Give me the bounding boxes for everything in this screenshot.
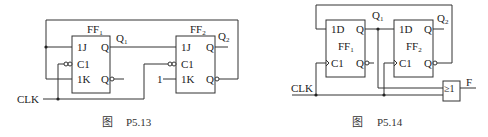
pin-c1: C1	[331, 57, 344, 69]
pin-q: Q	[424, 23, 432, 35]
qbar-bubble	[110, 77, 114, 81]
clock-invert-bubble	[68, 62, 72, 66]
junction-dot	[44, 45, 47, 48]
pin-c1: C1	[77, 58, 90, 70]
pin-1d: 1D	[331, 23, 345, 35]
or-gate: ≥1	[443, 81, 460, 101]
flipflop-ff2: FF2 1J C1 1K Q Q Q2	[168, 23, 230, 93]
pin-1j: 1J	[77, 41, 88, 53]
pin-qbar: Q	[356, 57, 364, 69]
pin-1k: 1K	[77, 73, 91, 85]
pin-c1: C1	[399, 57, 412, 69]
junction-dot	[376, 27, 379, 30]
pin-qbar: Q	[424, 57, 432, 69]
clock-invert-bubble	[64, 62, 68, 66]
q1-label: Q1	[372, 9, 384, 23]
pin-qbar: Q	[101, 73, 109, 85]
pin-q: Q	[101, 41, 109, 53]
q2-label: Q2	[218, 30, 230, 44]
qbar-bubble	[215, 77, 219, 81]
caption-prefix: 图	[102, 116, 113, 128]
pin-1j: 1J	[181, 41, 192, 53]
junction-dot	[314, 93, 317, 96]
q2-label: Q2	[437, 12, 449, 26]
figure-caption: P5.13	[126, 116, 152, 128]
figure-p5-13: FF1 1J C1 1K Q Q Q1 FF2 1J C1 1K Q Q Q2 …	[17, 20, 238, 128]
qbar-bubble	[433, 61, 437, 65]
flipflop-ff1: 1D Q FF1 C1 Q Q1	[326, 9, 384, 77]
clk-label: CLK	[17, 93, 39, 105]
constant-one-label: 1	[157, 73, 163, 85]
output-f-label: F	[466, 76, 472, 88]
pin-1k: 1K	[181, 73, 195, 85]
pin-1d: 1D	[399, 23, 413, 35]
clk-ff1-wire	[316, 63, 326, 95]
junction-dot	[382, 93, 385, 96]
pin-c1: C1	[181, 58, 194, 70]
circuit-diagrams: FF1 1J C1 1K Q Q Q1 FF2 1J C1 1K Q Q Q2 …	[0, 0, 488, 137]
pin-qbar: Q	[206, 73, 214, 85]
ff2-label: FF2	[190, 23, 206, 37]
q1-label: Q1	[116, 32, 128, 46]
caption-prefix: 图	[352, 116, 363, 128]
figure-caption: P5.14	[377, 116, 403, 128]
figure-p5-14: 1D Q FF1 C1 Q Q1 1D Q FF2 C1 Q Q2 ≥1 F C	[291, 5, 476, 128]
clk-label: CLK	[291, 82, 313, 94]
clock-invert-bubble	[172, 62, 176, 66]
junction-dot	[56, 97, 59, 100]
qbar-bubble	[365, 61, 369, 65]
or-gate-label: ≥1	[444, 83, 455, 94]
clk-ff2-wire	[384, 63, 394, 95]
flipflop-ff1: FF1 1J C1 1K Q Q Q1	[64, 23, 128, 93]
clk-ff1-wire	[58, 64, 64, 99]
pin-q: Q	[206, 41, 214, 53]
flipflop-ff2: 1D Q FF2 C1 Q Q2	[394, 12, 449, 77]
clock-invert-bubble	[168, 62, 172, 66]
pin-q: Q	[356, 23, 364, 35]
ff1-label: FF1	[87, 23, 103, 37]
